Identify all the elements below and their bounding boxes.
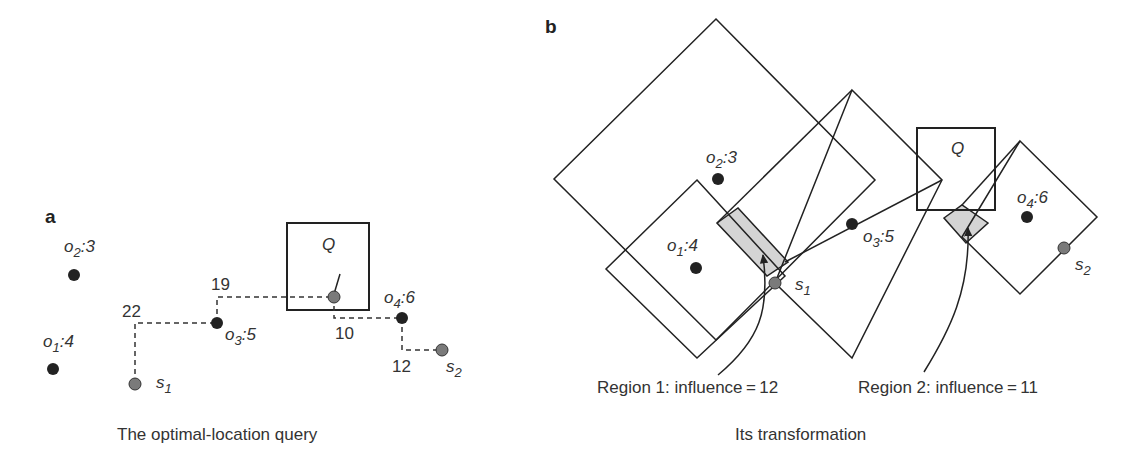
object-o1-dot-a bbox=[47, 363, 59, 375]
object-o4-label-b: o4:6 bbox=[1017, 188, 1048, 211]
panel-b-letter: b bbox=[545, 16, 557, 37]
object-o1-label-b: o1:4 bbox=[667, 236, 698, 259]
object-o1-dot-b bbox=[690, 262, 702, 274]
distance-12: 12 bbox=[392, 357, 411, 376]
site-s2-dot-a bbox=[436, 344, 448, 356]
panel-b: b Q o2:3 bbox=[545, 16, 1097, 444]
site-s1-label-a: s1 bbox=[156, 373, 172, 396]
object-o2-label-b: o2:3 bbox=[706, 148, 737, 171]
site-s1-dot-a bbox=[129, 378, 141, 390]
object-o4-label-a: o4:6 bbox=[384, 288, 415, 311]
influence-squares bbox=[554, 19, 1097, 358]
object-o3-label-a: o3:5 bbox=[225, 325, 256, 348]
site-s2-dot-b bbox=[1058, 242, 1070, 254]
site-s2-label-a: s2 bbox=[446, 357, 463, 380]
panel-a-caption: The optimal-location query bbox=[117, 425, 318, 444]
distance-22: 22 bbox=[122, 302, 141, 321]
panel-a-letter: a bbox=[45, 206, 56, 227]
object-o2-dot-b bbox=[712, 173, 724, 185]
optimal-point-dot-a bbox=[328, 291, 340, 303]
site-s1-label-b: s1 bbox=[795, 275, 811, 298]
object-o1-label-a: o1:4 bbox=[43, 332, 74, 355]
region-1-shape bbox=[717, 208, 788, 276]
site-s1-dot-b bbox=[769, 277, 781, 289]
query-label-b: Q bbox=[951, 139, 964, 158]
region-1-label: Region 1: influence = 12 bbox=[597, 378, 778, 397]
object-o2-dot-a bbox=[68, 269, 80, 281]
object-o4-dot-a bbox=[396, 312, 408, 324]
distance-10: 10 bbox=[335, 324, 354, 343]
object-o4-dot-b bbox=[1021, 211, 1033, 223]
diamond-o3-edge bbox=[717, 90, 852, 223]
object-o3-dot-a bbox=[211, 317, 223, 329]
site-s2-label-b: s2 bbox=[1075, 255, 1092, 278]
object-o3-label-b: o3:5 bbox=[863, 227, 894, 250]
panel-b-caption: Its transformation bbox=[735, 425, 866, 444]
region-2-label: Region 2: influence = 11 bbox=[858, 378, 1038, 397]
diamond-o4-edge bbox=[962, 141, 1020, 205]
object-o3-dot-b bbox=[846, 218, 858, 230]
distance-19: 19 bbox=[211, 275, 230, 294]
figure: a Q 22 19 10 12 o2:3 o1:4 o3:5 o4:6 s1 bbox=[0, 0, 1140, 465]
query-label-a: Q bbox=[322, 235, 335, 254]
region-2-arrow bbox=[924, 228, 968, 372]
panel-a: a Q 22 19 10 12 o2:3 o1:4 o3:5 o4:6 s1 bbox=[43, 206, 463, 444]
object-o2-label-a: o2:3 bbox=[64, 237, 95, 260]
